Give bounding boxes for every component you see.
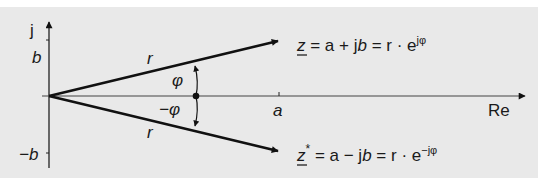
angle-arc	[193, 66, 200, 126]
tick-label-a: a	[273, 101, 282, 120]
svg-text:z* = a − jb = r · e−jφ: z* = a − jb = r · e−jφ	[296, 142, 437, 165]
angle-label-phi: φ	[172, 71, 183, 90]
vector-z	[49, 41, 278, 96]
tick-label-b: b	[32, 48, 41, 67]
real-axis-label: Re	[488, 101, 510, 120]
tick-label-minus-b: −b	[19, 145, 38, 164]
imaginary-axis	[46, 22, 49, 168]
complex-plane-diagram: j b −b Re a r r φ −φ z = a + jb = r · ej…	[0, 0, 547, 184]
magnitude-label-z-conjugate: r	[147, 123, 154, 142]
equation-z-conjugate: z* = a − jb = r · e−jφ	[296, 142, 437, 165]
real-axis	[42, 92, 525, 96]
angle-label-minus-phi: −φ	[159, 100, 180, 119]
imaginary-axis-label: j	[29, 21, 34, 40]
equation-z: z = a + jb = r · ejφ	[296, 34, 426, 55]
magnitude-label-z: r	[147, 49, 154, 68]
svg-text:z = a + jb = r · ejφ: z = a + jb = r · ejφ	[296, 34, 426, 55]
